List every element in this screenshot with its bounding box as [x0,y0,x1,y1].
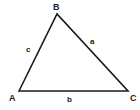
triangle-diagram: A B C a b c [0,0,140,110]
vertex-label-a: A [9,94,16,103]
side-label-b: b [67,96,72,104]
triangle-shape [0,0,140,110]
side-label-a: a [90,38,94,46]
vertex-label-b: B [53,3,60,12]
triangle-outline [19,14,128,91]
vertex-label-c: C [130,94,137,103]
side-label-c: c [26,46,30,54]
